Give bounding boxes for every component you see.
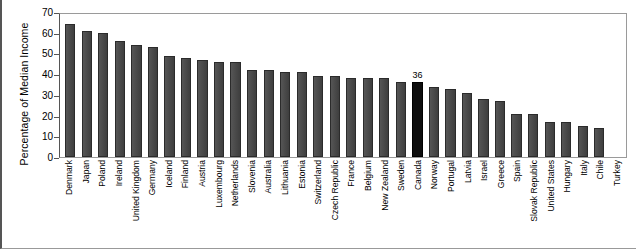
bar-slot xyxy=(459,14,476,157)
bar-slot xyxy=(227,14,244,157)
bar-slot xyxy=(112,14,129,157)
bar-slot xyxy=(62,14,79,157)
x-label-slot: Estonia xyxy=(293,160,310,246)
x-label-slot: Japan xyxy=(78,160,95,246)
bar xyxy=(313,76,323,157)
x-tick-label: Japan xyxy=(81,160,90,183)
x-label-slot: Canada xyxy=(409,160,426,246)
bar-slot xyxy=(508,14,525,157)
bar xyxy=(445,89,455,157)
bar xyxy=(82,31,92,157)
x-tick-label: Italy xyxy=(579,160,588,176)
bar xyxy=(115,41,125,157)
x-label-slot: Austria xyxy=(194,160,211,246)
bar xyxy=(214,62,224,157)
bar-slot xyxy=(475,14,492,157)
bar xyxy=(98,33,108,157)
y-tick-label: 50 xyxy=(42,49,53,59)
bar xyxy=(148,47,158,157)
bar xyxy=(164,56,174,158)
x-tick-label: Latvia xyxy=(463,160,472,183)
x-label-slot: Denmark xyxy=(61,160,78,246)
x-label-slot: Italy xyxy=(575,160,592,246)
bar xyxy=(65,24,75,157)
x-tick-label: Canada xyxy=(413,160,422,190)
y-axis-title: Percentage of Median Income xyxy=(18,14,30,174)
y-axis-ticks: 010203040506070 xyxy=(35,13,59,158)
bar-slot xyxy=(558,14,575,157)
x-label-slot: Latvia xyxy=(459,160,476,246)
x-tick-label: Portugal xyxy=(446,160,455,192)
x-tick-label: Slovenia xyxy=(247,160,256,193)
x-tick-label: Lithuania xyxy=(281,160,290,195)
x-label-slot: France xyxy=(343,160,360,246)
x-label-slot: Ireland xyxy=(111,160,128,246)
x-label-slot: Hungary xyxy=(559,160,576,246)
bar xyxy=(197,60,207,157)
y-tick-label: 40 xyxy=(42,70,53,80)
plot-area: 36 xyxy=(59,13,627,158)
x-tick-label: United Kingdom xyxy=(131,160,140,221)
y-tick-mark xyxy=(54,158,59,159)
bar xyxy=(131,45,141,157)
bar-slot xyxy=(260,14,277,157)
bar xyxy=(412,82,422,157)
x-tick-label: Spain xyxy=(513,160,522,182)
y-tick-label: 20 xyxy=(42,112,53,122)
x-label-slot: Chile xyxy=(592,160,609,246)
x-label-slot: Israel xyxy=(476,160,493,246)
bar-slot xyxy=(591,14,608,157)
x-label-slot: Luxembourg xyxy=(210,160,227,246)
x-tick-label: Austria xyxy=(198,160,207,187)
x-label-slot: Slovak Republic xyxy=(526,160,543,246)
x-tick-label: Luxembourg xyxy=(214,160,223,208)
x-label-slot: Turkey xyxy=(609,160,626,246)
x-axis-labels: DenmarkJapanPolandIrelandUnited KingdomG… xyxy=(59,160,627,246)
x-label-slot: Sweden xyxy=(393,160,410,246)
x-label-slot: United Kingdom xyxy=(127,160,144,246)
bar xyxy=(330,76,340,157)
bar-slot xyxy=(393,14,410,157)
bar xyxy=(230,62,240,157)
bar-slot xyxy=(310,14,327,157)
x-tick-label: Hungary xyxy=(563,160,572,192)
y-tick-label: 10 xyxy=(42,132,53,142)
bar-slot xyxy=(277,14,294,157)
x-tick-label: Australia xyxy=(264,160,273,193)
bar-series: 36 xyxy=(60,14,626,157)
y-tick-label: 60 xyxy=(42,29,53,39)
y-tick-label: 70 xyxy=(42,8,53,18)
x-tick-label: New Zealand xyxy=(380,160,389,211)
bar-value-label: 36 xyxy=(412,71,422,80)
x-tick-label: Sweden xyxy=(397,160,406,191)
x-tick-label: Germany xyxy=(148,160,157,195)
x-tick-label: Chile xyxy=(596,160,605,180)
bar xyxy=(346,78,356,157)
bar xyxy=(478,99,488,157)
x-tick-label: Turkey xyxy=(612,160,621,186)
x-tick-label: Norway xyxy=(430,160,439,189)
bar xyxy=(247,70,257,157)
x-tick-label: United States xyxy=(546,160,555,212)
bar-slot xyxy=(492,14,509,157)
x-label-slot: Iceland xyxy=(161,160,178,246)
x-label-slot: Finland xyxy=(177,160,194,246)
bar xyxy=(297,72,307,157)
bar-slot xyxy=(178,14,195,157)
bar xyxy=(594,128,604,157)
x-label-slot: Belgium xyxy=(360,160,377,246)
x-tick-label: Finland xyxy=(181,160,190,188)
bar xyxy=(528,114,538,158)
bar xyxy=(495,101,505,157)
x-tick-label: Israel xyxy=(480,160,489,181)
x-label-slot: Poland xyxy=(94,160,111,246)
x-tick-label: France xyxy=(347,160,356,187)
bar-chart: Percentage of Median Income 010203040506… xyxy=(0,0,636,249)
x-label-slot: Netherlands xyxy=(227,160,244,246)
bar-slot xyxy=(211,14,228,157)
bar-slot xyxy=(194,14,211,157)
bar-slot xyxy=(293,14,310,157)
x-label-slot: Switzerland xyxy=(310,160,327,246)
x-label-slot: Australia xyxy=(260,160,277,246)
x-tick-label: Switzerland xyxy=(314,160,323,204)
